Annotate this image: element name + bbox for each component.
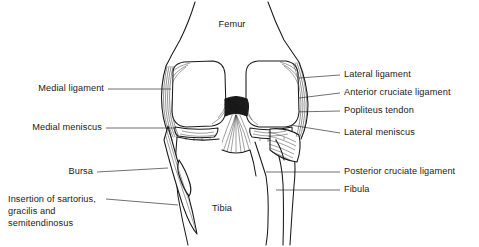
label-anterior-cruciate-ligament: Anterior cruciate ligament: [344, 87, 451, 98]
leader-lateral-ligament: [299, 75, 340, 78]
knee-anatomy-figure: Femur Tibia Medial ligament Medial menis…: [0, 0, 479, 247]
label-posterior-cruciate-ligament: Posterior cruciate ligament: [344, 166, 455, 177]
label-insertion-line2: gracilis and: [8, 206, 128, 217]
label-tibia: Tibia: [192, 203, 252, 214]
label-femur: Femur: [196, 19, 268, 30]
leader-bursa: [97, 168, 168, 172]
tibia-shaft-lateral: [255, 142, 268, 245]
medial-condyle: [172, 61, 226, 127]
label-medial-ligament: Medial ligament: [0, 83, 104, 94]
label-lateral-meniscus: Lateral meniscus: [344, 127, 415, 138]
tibia-tubercle: [222, 150, 256, 176]
label-insertion-line1: Insertion of sartorius,: [8, 194, 128, 205]
label-fibula: Fibula: [344, 184, 370, 195]
label-popliteus-tendon: Popliteus tendon: [344, 105, 414, 116]
label-medial-meniscus: Medial meniscus: [0, 122, 102, 133]
fibula-medial-edge: [276, 146, 284, 245]
label-insertion-line3: semitendinosus: [8, 218, 128, 229]
lateral-condyle: [246, 61, 299, 127]
label-bursa: Bursa: [0, 166, 93, 177]
label-lateral-ligament: Lateral ligament: [344, 69, 411, 80]
